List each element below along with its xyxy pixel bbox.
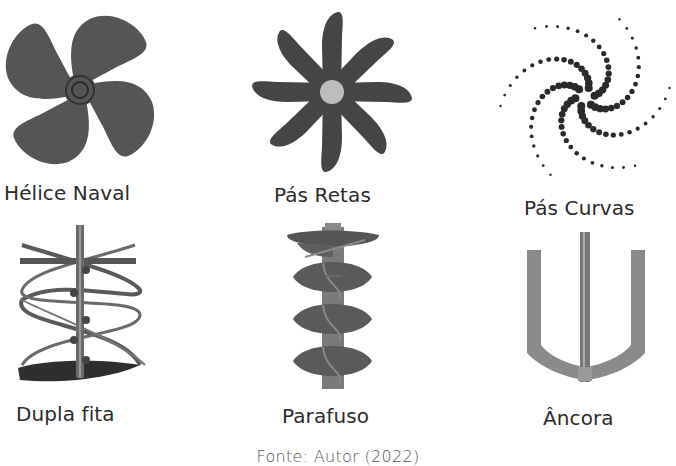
anchor-icon [450, 215, 676, 435]
label-naval-propeller: Hélice Naval [4, 181, 130, 205]
label-double-ribbon: Dupla fita [16, 402, 115, 426]
tile-naval-propeller: Hélice Naval [0, 0, 225, 215]
tile-double-ribbon: Dupla fita [0, 215, 225, 435]
tile-screw: Parafuso [225, 215, 450, 435]
screw-icon [225, 215, 450, 435]
label-screw: Parafuso [282, 404, 369, 428]
figure-caption: Fonte: Autor (2022) [0, 447, 676, 466]
label-straight-blades: Pás Retas [274, 183, 371, 207]
tile-curved-blades: Pás Curvas [450, 0, 676, 225]
tile-straight-blades: Pás Retas [225, 0, 450, 215]
curved-blades-icon [450, 0, 676, 225]
tile-anchor: Âncora [450, 215, 676, 435]
label-anchor: Âncora [543, 406, 614, 430]
